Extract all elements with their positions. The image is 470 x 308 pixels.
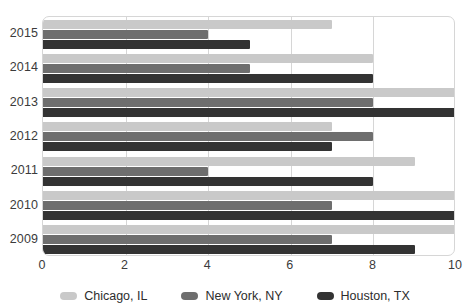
legend-item-houston[interactable]: Houston, TX: [317, 289, 410, 303]
legend-swatch-icon-newyork: [181, 292, 198, 300]
y-tick-label-2013: 2013: [0, 95, 38, 109]
legend-label-chicago: Chicago, IL: [84, 289, 147, 303]
y-tick-label-2009: 2009: [0, 232, 38, 246]
y-tick-label-2010: 2010: [0, 198, 38, 212]
bar-houston-2015: [43, 40, 250, 49]
x-tick-label-10: 10: [448, 258, 462, 272]
bar-newyork-2014: [43, 64, 250, 73]
bar-newyork-2012: [43, 132, 373, 141]
bar-group-2009: [43, 223, 454, 256]
y-tick-label-2015: 2015: [0, 26, 38, 40]
x-tick-label-2: 2: [121, 258, 128, 272]
legend-item-chicago[interactable]: Chicago, IL: [60, 289, 147, 303]
bar-group-2013: [43, 86, 454, 120]
bar-newyork-2011: [43, 167, 208, 176]
bar-chicago-2013: [43, 88, 455, 97]
x-tick-label-4: 4: [204, 258, 211, 272]
x-tick-label-8: 8: [369, 258, 376, 272]
bar-houston-2012: [43, 142, 332, 151]
bar-chicago-2010: [43, 191, 455, 200]
bar-chicago-2012: [43, 122, 332, 131]
bar-group-2010: [43, 188, 454, 222]
chart-legend: Chicago, ILNew York, NYHouston, TX: [0, 286, 470, 306]
bar-group-2015: [43, 17, 454, 51]
bar-newyork-2013: [43, 98, 373, 107]
y-tick-label-2012: 2012: [0, 129, 38, 143]
bar-houston-2009: [43, 245, 415, 254]
bar-chicago-2009: [43, 225, 455, 234]
bar-houston-2011: [43, 177, 373, 186]
bar-newyork-2010: [43, 201, 332, 210]
legend-label-houston: Houston, TX: [341, 289, 410, 303]
legend-item-newyork[interactable]: New York, NY: [181, 289, 282, 303]
plot-area: [42, 16, 455, 256]
bar-chicago-2014: [43, 54, 373, 63]
bar-houston-2014: [43, 74, 373, 83]
legend-label-newyork: New York, NY: [205, 289, 282, 303]
y-axis: 2015201420132012201120102009: [0, 16, 38, 256]
bar-chicago-2011: [43, 157, 415, 166]
x-tick-label-6: 6: [286, 258, 293, 272]
legend-swatch-icon-houston: [317, 292, 334, 300]
bar-newyork-2009: [43, 235, 332, 244]
bar-houston-2013: [43, 108, 455, 117]
bar-newyork-2015: [43, 30, 208, 39]
x-axis: 0246810: [42, 258, 455, 276]
y-tick-label-2011: 2011: [0, 163, 38, 177]
legend-swatch-icon-chicago: [60, 292, 77, 300]
bar-houston-2010: [43, 211, 455, 220]
bar-group-2014: [43, 51, 454, 85]
y-tick-label-2014: 2014: [0, 60, 38, 74]
bar-chart: 2015201420132012201120102009 0246810 Chi…: [0, 0, 470, 308]
bar-chicago-2015: [43, 20, 332, 29]
x-tick-label-0: 0: [39, 258, 46, 272]
bar-group-2011: [43, 154, 454, 188]
bar-group-2012: [43, 120, 454, 154]
